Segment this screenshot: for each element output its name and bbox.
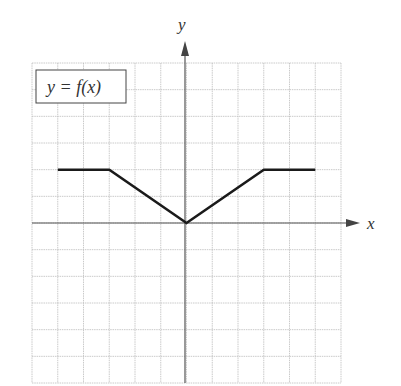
y-axis-label: y [176,15,186,34]
legend-box: y = f(x) [36,70,126,103]
legend-label: y = f(x) [45,77,101,98]
function-graph: x y y = f(x) [0,0,401,386]
x-axis-arrow-icon [346,219,360,227]
y-axis-arrow-icon [181,41,189,56]
x-axis-label: x [366,214,375,233]
